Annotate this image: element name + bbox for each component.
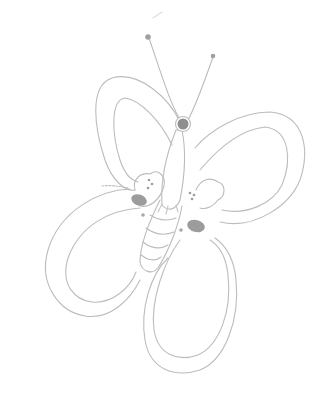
upper-right-wing-outer bbox=[195, 112, 305, 224]
left-wing-hatching bbox=[102, 186, 128, 188]
left-antenna bbox=[149, 38, 182, 122]
lower-left-wing-outer bbox=[46, 189, 140, 317]
abdomen bbox=[140, 200, 182, 272]
left-wing-spot bbox=[130, 192, 149, 208]
lower-right-wing-outer bbox=[144, 238, 237, 373]
right-wing-spot bbox=[186, 218, 206, 234]
abdomen-segment-3 bbox=[143, 242, 168, 248]
abdomen-segment-4 bbox=[141, 255, 161, 260]
butterfly-drawing: Butterfly drawing bbox=[0, 0, 324, 398]
stray-mark bbox=[153, 12, 162, 18]
right-small-dot bbox=[179, 228, 183, 232]
left-small-dot bbox=[141, 213, 145, 217]
right-antenna-tip bbox=[211, 54, 216, 59]
upper-left-wing-inner bbox=[114, 98, 172, 182]
right-antenna bbox=[188, 57, 213, 120]
left-antenna-tip bbox=[145, 34, 151, 40]
thorax bbox=[162, 130, 185, 209]
lower-left-wing-inner bbox=[66, 208, 140, 302]
abdomen-segment-2 bbox=[146, 228, 174, 234]
lower-right-wing-inner bbox=[153, 240, 228, 358]
upper-left-wing-outer bbox=[96, 77, 180, 191]
right-shoulder bbox=[196, 179, 224, 208]
head-fill bbox=[178, 119, 189, 130]
upper-right-wing-inner bbox=[200, 127, 288, 211]
abdomen-segment-1 bbox=[150, 215, 176, 220]
